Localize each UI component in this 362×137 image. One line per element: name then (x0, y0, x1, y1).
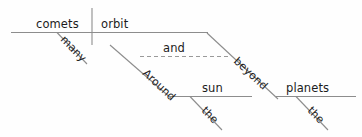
word-and: and (163, 41, 185, 55)
word-around: Around (140, 67, 178, 104)
word-sun: sun (202, 81, 223, 95)
word-planets: planets (286, 81, 329, 95)
word-the-sun: the (199, 104, 221, 126)
sentence-diagram-canvas: comets orbit many and Around sun the bey… (0, 0, 362, 137)
word-orbit: orbit (101, 17, 129, 31)
word-the-planets: the (305, 104, 327, 126)
word-comets: comets (36, 17, 79, 31)
word-many: many (58, 33, 89, 65)
word-beyond: beyond (231, 55, 270, 93)
sentence-diagram-svg: comets orbit many and Around sun the bey… (0, 0, 362, 137)
